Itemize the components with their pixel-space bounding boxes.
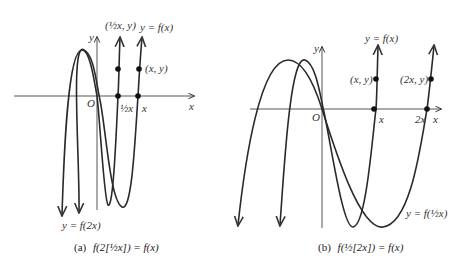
point-x-y-a [136, 66, 142, 72]
curve-f2x-label-a: y = f(2x) [61, 219, 101, 232]
point-half-x-axis [115, 93, 121, 99]
curve-f-x-a [76, 38, 142, 212]
point-2x-label-b: (2x, y) [400, 73, 428, 86]
panel-b: y x O (x, y) (2x, y) y = f(x) x 2x y = f… [238, 32, 448, 254]
tick-x-a: x [141, 102, 147, 114]
caption-a-prefix: (a) [74, 241, 87, 254]
x-axis-label-b: x [432, 113, 438, 125]
curve-fhalf-label-b: y = f(½x) [405, 207, 448, 220]
caption-b-equation: f(½[2x]) = f(x) [338, 241, 404, 254]
panel-a: y x O (x, y) (½x, y) y = f(x) ½x x y = f… [14, 19, 194, 254]
curve-f-2x-a [62, 38, 120, 215]
origin-label-b: O [312, 111, 320, 123]
curve-f-label-a: y = f(x) [139, 21, 173, 34]
caption-a: (a) f(2[½x]) = f(x) [74, 241, 159, 254]
tick-2x-b: 2x [415, 113, 426, 125]
point-label-b: (x, y) [350, 73, 373, 86]
point-x-axis-a [135, 93, 141, 99]
point-x-axis-b [371, 106, 377, 112]
point-half-label-a: (½x, y) [105, 19, 136, 32]
tick-x-b: x [378, 113, 384, 125]
point-2x-axis-b [424, 106, 430, 112]
tick-half-x-a: ½x [120, 102, 133, 114]
y-axis-label-a: y [88, 31, 94, 43]
curve-f-label-b: y = f(x) [364, 32, 398, 45]
caption-a-equation: f(2[½x]) = f(x) [93, 241, 159, 254]
point-x-y-b [373, 76, 379, 82]
x-axis-label-a: x [188, 100, 194, 112]
point-label-a: (x, y) [145, 62, 168, 75]
caption-b: (b) f(½[2x]) = f(x) [318, 241, 404, 254]
point-half-x-y [115, 66, 121, 72]
point-2x-y-b [428, 76, 434, 82]
y-axis-label-b: y [313, 42, 319, 54]
caption-b-prefix: (b) [318, 241, 331, 254]
origin-label-a: O [87, 97, 95, 109]
figure-canvas: y x O (x, y) (½x, y) y = f(x) ½x x y = f… [0, 0, 461, 273]
